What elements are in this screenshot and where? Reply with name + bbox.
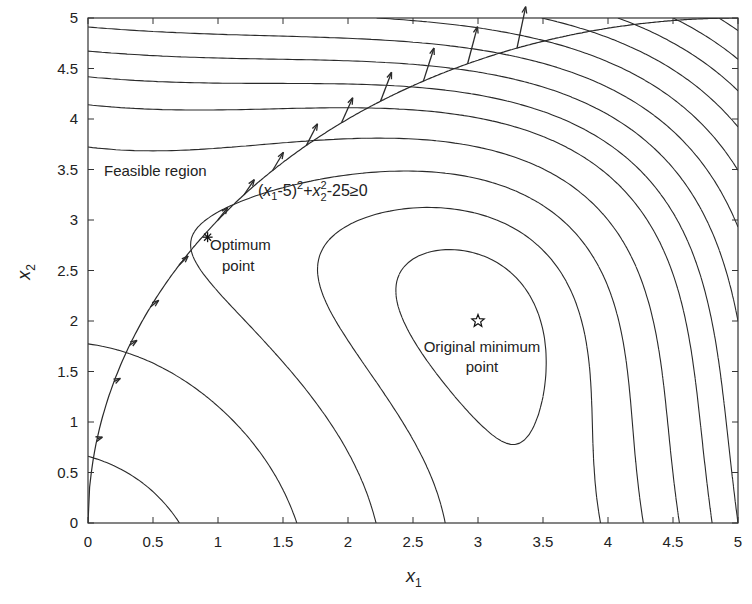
contour-chart: 00.511.522.533.544.5500.511.522.533.544.…	[0, 0, 752, 604]
y-tick-label: 1	[70, 413, 78, 430]
y-tick-label: 5	[70, 9, 78, 26]
y-tick-label: 2.5	[57, 262, 78, 279]
x-tick-label: 2.5	[403, 533, 424, 550]
feasible-region-label: Feasible region	[104, 162, 207, 179]
axis-ticks: 00.511.522.533.544.5500.511.522.533.544.…	[57, 9, 742, 550]
y-tick-label: 4.5	[57, 60, 78, 77]
contour-line	[377, 18, 738, 170]
y-tick-label: 4	[70, 110, 78, 127]
optimum-label-line2: point	[222, 257, 255, 274]
gradient-arrow	[468, 27, 478, 64]
gradient-arrows	[95, 7, 526, 442]
original-minimum-marker	[472, 315, 484, 327]
optimum-label-line1: Optimum	[210, 236, 271, 253]
contour-line	[88, 138, 679, 523]
y-tick-label: 2	[70, 312, 78, 329]
x-tick-label: 3.5	[533, 533, 554, 550]
y-axis-label: x2	[14, 264, 38, 281]
y-tick-label: 3.5	[57, 161, 78, 178]
contour-line	[88, 51, 738, 321]
x-tick-label: 4	[604, 533, 612, 550]
gradient-arrow	[517, 7, 526, 49]
y-tick-label: 1.5	[57, 363, 78, 380]
x-tick-label: 2	[344, 533, 352, 550]
x-tick-label: 1	[214, 533, 222, 550]
contour-line	[719, 18, 738, 31]
contour-line	[88, 77, 738, 523]
y-tick-label: 0	[70, 514, 78, 531]
y-tick-label: 3	[70, 211, 78, 228]
contour-lines	[88, 18, 738, 523]
contour-line	[618, 18, 738, 91]
original-minimum-label-line2: point	[466, 358, 499, 375]
x-tick-label: 0.5	[143, 533, 164, 550]
x-tick-label: 3	[474, 533, 482, 550]
x-tick-label: 5	[734, 533, 742, 550]
constraint-label: (x1-5)2+x22-25≥0	[258, 179, 368, 203]
constraint-curve	[88, 18, 738, 523]
contour-line	[191, 171, 644, 523]
gradient-arrow	[179, 256, 188, 265]
original-minimum-label-line1: Original minimum	[424, 338, 541, 355]
gradient-arrow	[273, 152, 284, 170]
plot-frame	[88, 18, 738, 523]
y-tick-label: 0.5	[57, 464, 78, 481]
gradient-arrow	[423, 48, 434, 81]
x-axis-label: x1	[405, 566, 422, 590]
x-tick-label: 4.5	[663, 533, 684, 550]
x-tick-label: 0	[84, 533, 92, 550]
x-tick-label: 1.5	[273, 533, 294, 550]
